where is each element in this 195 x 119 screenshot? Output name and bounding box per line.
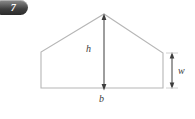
badge-number-label: 7 <box>0 0 28 15</box>
height-label: h <box>86 43 91 54</box>
width-label: w <box>178 65 185 76</box>
exercise-number-badge[interactable]: 7 <box>0 0 28 15</box>
width-dimension-arrow <box>166 52 178 89</box>
figure-container: 7 h b w <box>0 0 195 119</box>
height-dimension-arrow <box>102 14 107 91</box>
geometry-figure-svg <box>0 0 195 119</box>
base-label: b <box>99 93 104 104</box>
pentagon-outline <box>41 14 163 88</box>
